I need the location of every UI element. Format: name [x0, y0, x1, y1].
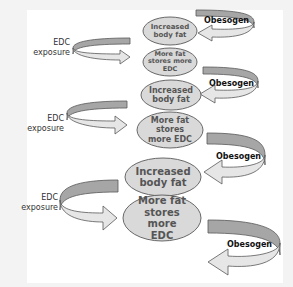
node-2-label: More fat stores more EDC: [146, 50, 194, 74]
obesogen-arrow-1: [196, 10, 254, 41]
obesogen-label-4: Obesogen: [227, 240, 272, 249]
obesogen-label-2: Obesogen: [209, 79, 254, 88]
obesogen-label-3: Obesogen: [216, 152, 261, 161]
edc-label-line2: exposure: [8, 203, 58, 213]
node-3-label: Increased body fat: [145, 82, 197, 108]
edc-label-line2: exposure: [14, 124, 64, 134]
obesogen-label-1: Obesogen: [204, 16, 249, 25]
edc-exposure-label-2: EDC exposure: [14, 114, 64, 134]
edc-label-line1: EDC: [20, 38, 70, 48]
edc-label-line1: EDC: [14, 114, 64, 124]
node-5-label: Increased body fat: [131, 161, 195, 193]
edc-label-line1: EDC: [8, 193, 58, 203]
edc-arrow-3: [60, 180, 118, 230]
node-1-label: Increased body fat: [147, 19, 193, 43]
edc-label-line2: exposure: [20, 48, 70, 58]
node-4-label: More fat stores more EDC: [144, 114, 196, 146]
node-6-label: More fat stores more EDC: [135, 198, 189, 238]
edc-arrow-1: [73, 38, 130, 64]
edc-arrow-2: [67, 101, 127, 134]
edc-exposure-label-3: EDC exposure: [8, 193, 58, 213]
edc-exposure-label-1: EDC exposure: [20, 38, 70, 58]
